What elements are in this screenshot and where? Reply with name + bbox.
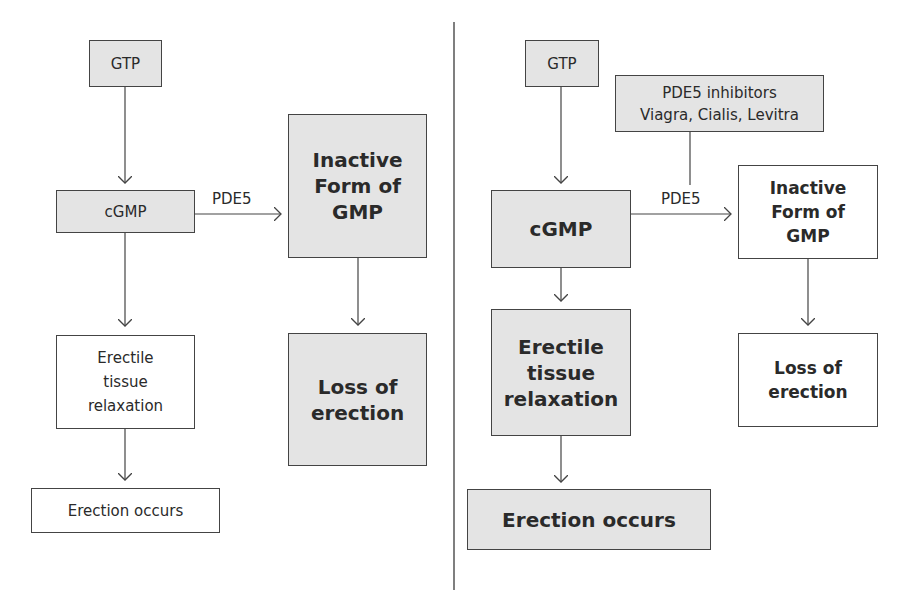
relaxation-box-left: Erectile tissue relaxation <box>56 335 195 429</box>
gtp-box-right: GTP <box>525 40 599 87</box>
inactive-gmp-box-right: Inactive Form of GMP <box>738 165 878 259</box>
loss-box-left: Loss of erection <box>288 333 427 466</box>
inactive-gmp-box-left: Inactive Form of GMP <box>288 114 427 258</box>
relaxation-box-right: Erectile tissue relaxation <box>491 309 631 436</box>
loss-box-right: Loss of erection <box>738 333 878 427</box>
gtp-box-left: GTP <box>89 40 162 87</box>
pde5-label-right: PDE5 <box>661 190 701 208</box>
cgmp-box-right: cGMP <box>491 190 631 268</box>
pde5-inhibitors-box: PDE5 inhibitors Viagra, Cialis, Levitra <box>615 75 824 132</box>
pde5-label-left: PDE5 <box>212 190 252 208</box>
erection-box-right: Erection occurs <box>467 489 711 550</box>
erection-box-left: Erection occurs <box>31 488 220 533</box>
cgmp-box-left: cGMP <box>56 190 195 233</box>
